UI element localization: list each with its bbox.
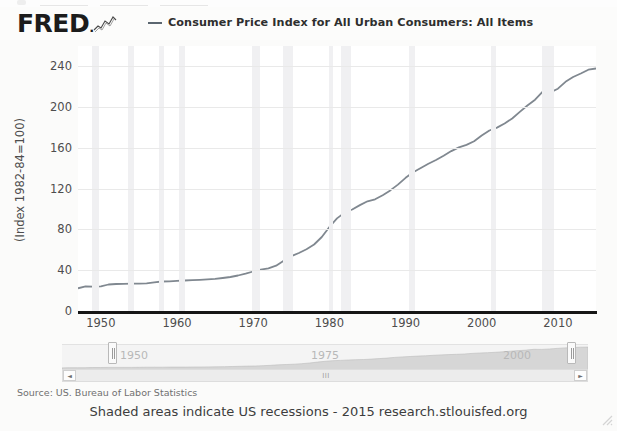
navigator-year-1975: 1975 [311, 349, 339, 362]
y-axis-tick-label: 120 [30, 182, 72, 196]
gridline-horizontal [78, 148, 596, 149]
y-axis-ticks: 04080120160200240 [26, 40, 72, 320]
x-axis-tick-label: 1990 [391, 316, 420, 330]
fred-logo[interactable]: FRED. [17, 11, 94, 40]
gridline-horizontal [78, 189, 596, 190]
gridline-horizontal [78, 229, 596, 230]
y-axis-tick-label: 240 [30, 59, 72, 73]
page-top-strip [0, 0, 617, 7]
recession-band [179, 46, 185, 311]
y-axis-title-text: (Index 1982-84=100) [13, 118, 27, 242]
recession-band [252, 46, 260, 311]
navigator-scrollbar[interactable]: III ◄ ► [62, 369, 588, 382]
navigator-right-handle[interactable] [567, 342, 576, 364]
recession-band [491, 46, 496, 311]
navigator-track[interactable]: 1950 1975 2000 [62, 344, 588, 370]
recession-band [341, 46, 352, 311]
cpi-line-series [78, 46, 596, 311]
fred-logo-text: FRED [17, 9, 89, 38]
x-axis-ticks: 1950196019701980199020002010 [0, 316, 617, 334]
plot-area[interactable] [78, 46, 596, 311]
navigator-scroll-left-button[interactable]: ◄ [63, 370, 76, 381]
x-axis-tick-label: 1970 [239, 316, 268, 330]
gridline-horizontal [78, 66, 596, 67]
legend-color-swatch [148, 22, 162, 24]
fred-chart-screenshot: FRED. Consumer Price Index for All Urban… [0, 0, 617, 431]
chart-legend[interactable]: Consumer Price Index for All Urban Consu… [148, 16, 533, 29]
gridline-horizontal [78, 270, 596, 271]
recession-band [542, 46, 554, 311]
y-axis-tick-label: 40 [30, 263, 72, 277]
y-axis-tick-label: 200 [30, 100, 72, 114]
ghost-rule-3 [160, 5, 208, 6]
x-axis-line [78, 311, 597, 314]
x-axis-tick-label: 2000 [467, 316, 496, 330]
source-text: Source: US. Bureau of Labor Statistics [17, 387, 197, 398]
recession-band [159, 46, 164, 311]
y-axis-tick-label: 80 [30, 222, 72, 236]
gridline-horizontal [78, 107, 596, 108]
y-axis-tick-label: 160 [30, 141, 72, 155]
chart-zone: (Index 1982-84=100) 04080120160200240 19… [0, 40, 617, 330]
navigator-scroll-thumb[interactable]: III [76, 370, 576, 381]
ghost-marker [17, 0, 26, 5]
fred-squiggle-icon [93, 15, 118, 33]
resize-grip-icon[interactable] [602, 415, 613, 426]
navigator-scroll-right-button[interactable]: ► [574, 370, 587, 381]
recession-band [409, 46, 414, 311]
legend-series-label: Consumer Price Index for All Urban Consu… [168, 16, 533, 29]
x-axis-tick-label: 1960 [162, 316, 191, 330]
x-axis-tick-label: 1950 [86, 316, 115, 330]
footer-note: Shaded areas indicate US recessions - 20… [0, 404, 617, 419]
navigator-left-handle[interactable] [108, 342, 117, 364]
navigator-year-1950: 1950 [120, 349, 148, 362]
recession-band [128, 46, 135, 311]
ghost-rule-2 [100, 5, 148, 6]
recession-band [329, 46, 333, 311]
navigator-year-2000: 2000 [503, 349, 531, 362]
x-axis-tick-label: 1980 [315, 316, 344, 330]
cpi-line-path [78, 69, 596, 289]
ghost-rule-1 [40, 5, 88, 6]
chart-header: FRED. Consumer Price Index for All Urban… [0, 7, 617, 40]
recession-band [92, 46, 99, 311]
recession-band [283, 46, 293, 311]
range-navigator[interactable]: 1950 1975 2000 III ◄ ► [62, 344, 588, 382]
x-axis-tick-label: 2010 [543, 316, 572, 330]
navigator-scroll-grip: III [322, 372, 330, 380]
